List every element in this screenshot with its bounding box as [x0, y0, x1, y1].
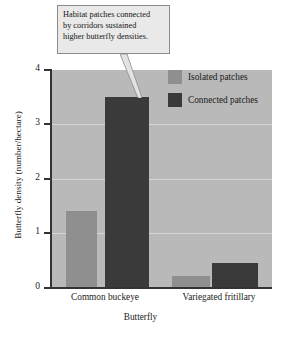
bar-variegated-fritillary-connected	[212, 263, 258, 287]
x-category-label-common-buckeye: Common buckeye	[50, 292, 160, 302]
callout-line-1: Habitat patches connected	[63, 10, 165, 21]
bar-common-buckeye-connected	[105, 97, 149, 287]
legend-label-isolated-patches: Isolated patches	[188, 70, 248, 84]
legend-label-connected-patches: Connected patches	[188, 93, 258, 107]
y-tick-mark-3	[44, 123, 50, 125]
plot-area: Isolated patches Connected patches	[52, 70, 272, 287]
callout-line-2: by corridors sustained	[63, 21, 165, 32]
y-tick-label-3: 3	[26, 117, 40, 127]
y-axis-line	[50, 69, 52, 288]
x-axis-title: Butterfly	[0, 312, 281, 322]
legend-swatch-connected-patches	[168, 93, 182, 107]
gridline-3	[52, 124, 272, 125]
x-axis-line	[44, 287, 272, 289]
callout-line-3: higher butterfly densities.	[63, 32, 165, 43]
bar-chart-figure: Isolated patches Connected patches 4 3 2…	[0, 0, 281, 345]
y-tick-label-1: 1	[26, 226, 40, 236]
legend-swatch-isolated-patches	[168, 70, 182, 84]
x-category-label-variegated-fritillary: Variegated fritillary	[160, 292, 278, 302]
y-tick-mark-0	[44, 287, 50, 289]
y-tick-mark-1	[44, 232, 50, 234]
bar-common-buckeye-isolated	[66, 211, 97, 287]
bar-variegated-fritillary-isolated	[172, 276, 210, 287]
y-tick-mark-4	[44, 69, 50, 71]
y-tick-label-0: 0	[26, 281, 40, 291]
y-tick-labels: 4 3 2 1 0	[24, 0, 40, 345]
y-tick-mark-2	[44, 178, 50, 180]
callout-annotation: Habitat patches connected by corridors s…	[57, 5, 170, 54]
y-tick-label-2: 2	[26, 172, 40, 182]
y-tick-label-4: 4	[26, 63, 40, 73]
callout-pointer-icon	[120, 54, 142, 98]
gridline-2	[52, 179, 272, 180]
y-axis-title: Butterfly density (number/hectare)	[13, 75, 23, 275]
